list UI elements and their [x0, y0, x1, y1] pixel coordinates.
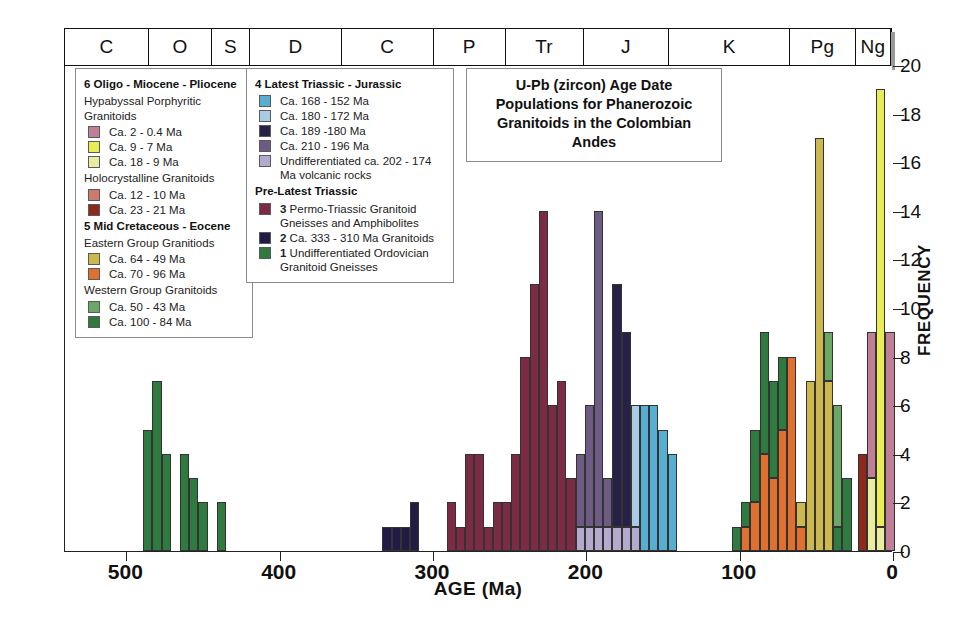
- legend-group-heading: Pre-Latest Triassic: [255, 184, 445, 198]
- legend-item-label: Ca. 23 - 21 Ma: [109, 203, 185, 217]
- y-axis-tick-label: 10: [900, 298, 940, 320]
- legend-item-label: Ca. 12 - 10 Ma: [109, 188, 185, 202]
- histogram-bar-segment: [778, 430, 787, 552]
- histogram-bar-segment: [787, 357, 796, 551]
- histogram-bar-segment: [631, 405, 640, 527]
- histogram-bar-segment: [876, 527, 885, 551]
- legend-item[interactable]: Ca. 168 - 152 Ma: [255, 94, 445, 108]
- histogram-bar-segment: [447, 502, 456, 551]
- histogram-bar-segment: [576, 527, 585, 551]
- legend-item-label: Ca. 70 - 96 Ma: [109, 267, 185, 281]
- legend-item-label: Ca. 9 - 7 Ma: [109, 140, 172, 154]
- legend-color-swatch: [88, 253, 100, 265]
- histogram-bar-segment: [612, 527, 621, 551]
- x-axis-tick-label: 0: [886, 560, 898, 584]
- legend-group-heading: 6 Oligo - Miocene - Pliocene: [84, 77, 244, 91]
- legend-item[interactable]: Ca. 180 - 172 Ma: [255, 109, 445, 123]
- timescale-edge-shadow: [891, 32, 895, 70]
- histogram-bar-segment: [658, 430, 667, 552]
- histogram-bar-segment: [493, 502, 502, 551]
- timescale-period-p-5: P: [434, 29, 506, 65]
- histogram-bar-segment: [885, 332, 894, 551]
- histogram-bar-segment: [668, 454, 677, 551]
- legend-subgroup-heading: Eastern Group Granitiods: [84, 236, 244, 250]
- legend-item-label: Ca. 180 - 172 Ma: [280, 109, 369, 123]
- histogram-bar-segment: [741, 502, 750, 526]
- legend-color-swatch: [88, 316, 100, 328]
- timescale-period-label: J: [621, 36, 631, 58]
- histogram-bar-segment: [576, 454, 585, 527]
- histogram-bar-segment: [392, 527, 401, 551]
- chart-title: U-Pb (zircon) Age Date Populations for P…: [475, 76, 713, 153]
- chart-title-box: U-Pb (zircon) Age Date Populations for P…: [466, 68, 722, 162]
- histogram-bar-segment: [732, 527, 741, 551]
- histogram-bar-segment: [603, 527, 612, 551]
- histogram-bar-segment: [152, 381, 161, 551]
- timescale-period-pg-9: Pg: [790, 29, 856, 65]
- legend-subgroup-heading: Hypabyssal Porphyritic Granitoids: [84, 94, 244, 123]
- legend-item[interactable]: Undifferentiated ca. 202 - 174 Ma volcan…: [255, 154, 445, 182]
- histogram-bar-segment: [824, 381, 833, 551]
- histogram-bar-segment: [778, 357, 787, 430]
- timescale-period-label: Ng: [861, 36, 886, 58]
- histogram-bar-segment: [876, 89, 885, 526]
- legend-item[interactable]: 2 Ca. 333 - 310 Ma Granitoids: [255, 231, 445, 245]
- histogram-bar-segment: [649, 405, 658, 551]
- legend-item[interactable]: Ca. 2 - 0.4 Ma: [84, 125, 244, 139]
- legend-color-swatch: [259, 110, 271, 122]
- histogram-bar-segment: [585, 405, 594, 527]
- histogram-bar-segment: [796, 527, 805, 551]
- legend-item[interactable]: Ca. 23 - 21 Ma: [84, 203, 244, 217]
- histogram-bar-segment: [842, 478, 851, 551]
- legend-item[interactable]: 3 Permo-Triassic Granitoid Gneisses and …: [255, 202, 445, 230]
- histogram-bar-segment: [410, 502, 419, 551]
- histogram-bar-segment: [603, 478, 612, 527]
- timescale-period-label: D: [289, 36, 303, 58]
- legend-item-label: Ca. 50 - 43 Ma: [109, 300, 185, 314]
- legend-color-swatch: [88, 204, 100, 216]
- histogram-bar-segment: [484, 527, 493, 551]
- legend-item[interactable]: Ca. 64 - 49 Ma: [84, 252, 244, 266]
- histogram-bar-segment: [594, 527, 603, 551]
- histogram-bar-segment: [465, 454, 474, 551]
- legend-item[interactable]: Ca. 50 - 43 Ma: [84, 300, 244, 314]
- legend-color-swatch: [259, 155, 271, 167]
- timescale-period-c-4: C: [342, 29, 434, 65]
- timescale-period-o-1: O: [149, 29, 212, 65]
- legend-item[interactable]: Ca. 210 - 196 Ma: [255, 139, 445, 153]
- legend-group-heading: 4 Latest Triassic - Jurassic: [255, 77, 445, 91]
- legend-item[interactable]: Ca. 100 - 84 Ma: [84, 315, 244, 329]
- legend-left: 6 Oligo - Miocene - PlioceneHypabyssal P…: [75, 68, 253, 338]
- histogram-bar-segment: [824, 332, 833, 381]
- histogram-bar-segment: [769, 478, 778, 551]
- x-axis-tick-label: 100: [721, 560, 756, 584]
- legend-item[interactable]: Ca. 18 - 9 Ma: [84, 155, 244, 169]
- legend-item[interactable]: Ca. 12 - 10 Ma: [84, 188, 244, 202]
- histogram-bar-segment: [548, 405, 557, 551]
- x-axis-tick-label: 200: [568, 560, 603, 584]
- x-axis-tick-label: 500: [108, 560, 143, 584]
- histogram-bar-segment: [806, 381, 815, 551]
- y-axis-tick-label: 4: [900, 444, 940, 466]
- timescale-period-c-0: C: [65, 29, 149, 65]
- legend-color-swatch: [259, 203, 271, 215]
- histogram-bar-segment: [760, 454, 769, 551]
- histogram-bar-segment: [189, 478, 198, 551]
- histogram-bar-segment: [217, 502, 226, 551]
- histogram-bar-segment: [162, 454, 171, 551]
- chart-figure: COSDCPTrJKPgNg FREQUENCY AGE (Ma) 6 Olig…: [0, 0, 967, 624]
- legend-item-label: Ca. 168 - 152 Ma: [280, 94, 369, 108]
- geologic-timescale-strip: COSDCPTrJKPgNg: [64, 28, 892, 66]
- histogram-bar-segment: [858, 454, 867, 551]
- legend-item[interactable]: Ca. 70 - 96 Ma: [84, 267, 244, 281]
- timescale-period-d-3: D: [250, 29, 342, 65]
- histogram-bar-segment: [796, 502, 805, 526]
- histogram-bar-segment: [557, 381, 566, 551]
- legend-item[interactable]: Ca. 189 -180 Ma: [255, 124, 445, 138]
- legend-item[interactable]: Ca. 9 - 7 Ma: [84, 140, 244, 154]
- legend-item-label: Ca. 64 - 49 Ma: [109, 252, 185, 266]
- legend-item-label: Undifferentiated ca. 202 - 174 Ma volcan…: [280, 154, 445, 182]
- legend-item[interactable]: 1 Undifferentiated Ordovician Granitoid …: [255, 246, 445, 274]
- x-axis-tick-label: 400: [261, 560, 296, 584]
- histogram-bar-segment: [511, 454, 520, 551]
